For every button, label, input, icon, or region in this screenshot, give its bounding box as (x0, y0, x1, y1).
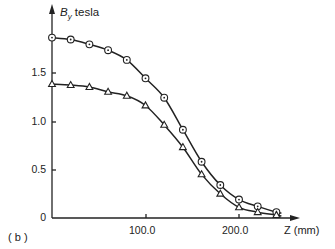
x-tick-label-100: 100.0 (129, 224, 155, 236)
y-tick-label-1.0: 1.0 (18, 115, 46, 127)
circle-marker-dot-icon (238, 199, 240, 201)
y-axis-arrow-icon (49, 4, 55, 14)
y-axis-title: By tesla (60, 6, 99, 21)
x-axis-title: Z (mm) (284, 224, 319, 236)
x-axis-arrow-icon (290, 215, 300, 221)
circle-marker-dot-icon (126, 59, 128, 61)
panel-label: ( b ) (8, 231, 28, 243)
y-tick-label-0.5: 0.5 (18, 163, 46, 175)
chart-plot-area (0, 0, 335, 249)
axes (49, 4, 300, 221)
triangle-marker-icon (142, 102, 149, 108)
circle-marker-dot-icon (70, 39, 72, 41)
circle-marker-dot-icon (257, 205, 259, 207)
circle-marker-dot-icon (145, 77, 147, 79)
curve-triangles (52, 84, 281, 216)
circle-marker-dot-icon (89, 43, 91, 45)
circle-marker-dot-icon (51, 37, 53, 39)
circle-marker-dot-icon (201, 161, 203, 163)
x-tick-label-200: 200.0 (222, 224, 248, 236)
circle-marker-dot-icon (219, 184, 221, 186)
y-tick-label-1.5: 1.5 (18, 66, 46, 78)
circle-marker-dot-icon (163, 97, 165, 99)
y-tick-label-0: 0 (18, 211, 46, 223)
circle-marker-dot-icon (107, 49, 109, 51)
circle-marker-dot-icon (182, 129, 184, 131)
